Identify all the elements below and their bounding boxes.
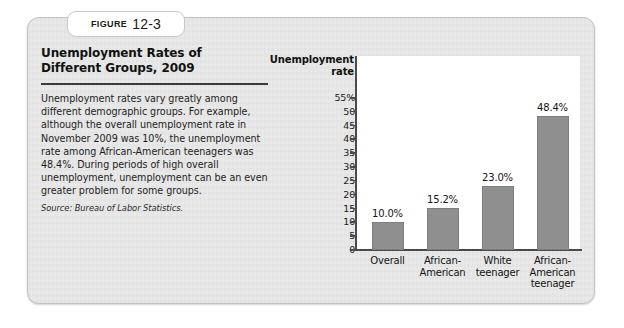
- bar-value-label: 48.4%: [523, 102, 583, 113]
- figure-text-column: Unemployment Rates of Different Groups, …: [41, 46, 269, 213]
- figure-description: Unemployment rates vary greatly among di…: [41, 92, 269, 198]
- figure-tab-word: Figure: [91, 19, 127, 29]
- title-divider: [41, 83, 268, 85]
- bar: [537, 116, 569, 250]
- bar: [427, 208, 459, 250]
- bar: [372, 222, 404, 250]
- figure-tab-number: 12-3: [132, 16, 161, 32]
- y-tick-mark: [350, 166, 356, 168]
- x-category-label-line: teenager: [467, 267, 529, 279]
- y-tick-mark: [350, 125, 356, 127]
- y-tick-label: 55%: [313, 93, 355, 103]
- y-tick-mark: [350, 208, 356, 210]
- x-category-label: African-American: [412, 255, 474, 278]
- x-category-label-line: African-: [522, 255, 584, 267]
- bar-value-label: 15.2%: [413, 194, 473, 205]
- x-category-label-line: teenager: [522, 278, 584, 290]
- figure-number-tab: Figure 12-3: [67, 11, 185, 37]
- y-tick-label: 30: [313, 162, 355, 172]
- x-category-label: African-Americanteenager: [522, 255, 584, 290]
- y-tick-label: 25: [313, 176, 355, 186]
- x-category-label-line: African-: [412, 255, 474, 267]
- x-category-label-line: American: [522, 267, 584, 279]
- y-tick-mark: [350, 221, 356, 223]
- x-category-label: Overall: [357, 255, 419, 267]
- x-category-label-line: American: [412, 267, 474, 279]
- y-axis-title-line-1: Unemployment: [268, 54, 354, 66]
- y-tick-label: 10: [313, 217, 355, 227]
- bar: [482, 186, 514, 250]
- y-tick-mark: [350, 194, 356, 196]
- y-axis-title-line-2: rate: [268, 66, 354, 78]
- y-axis-title: Unemployment rate: [268, 54, 354, 78]
- y-tick-mark: [350, 138, 356, 140]
- bar-value-label: 10.0%: [358, 208, 418, 219]
- y-tick-mark: [350, 235, 356, 237]
- x-category-label: Whiteteenager: [467, 255, 529, 278]
- figure-source: Source: Bureau of Labor Statistics.: [41, 203, 269, 213]
- y-tick-label: 5: [313, 231, 355, 241]
- y-tick-label: 40: [313, 134, 355, 144]
- y-tick-mark: [350, 97, 356, 99]
- y-tick-mark: [350, 111, 356, 113]
- figure-title: Unemployment Rates of Different Groups, …: [41, 46, 251, 76]
- y-tick-label: 35: [313, 148, 355, 158]
- y-tick-label: 20: [313, 190, 355, 200]
- y-tick-mark: [350, 152, 356, 154]
- bar-value-label: 23.0%: [468, 172, 528, 183]
- y-tick-label: 45: [313, 121, 355, 131]
- y-tick-mark: [350, 249, 356, 251]
- y-tick-label: 0: [313, 245, 355, 255]
- y-tick-label: 50: [313, 107, 355, 117]
- y-tick-mark: [350, 180, 356, 182]
- y-tick-label: 15: [313, 204, 355, 214]
- x-category-label-line: Overall: [357, 255, 419, 267]
- x-category-label-line: White: [467, 255, 529, 267]
